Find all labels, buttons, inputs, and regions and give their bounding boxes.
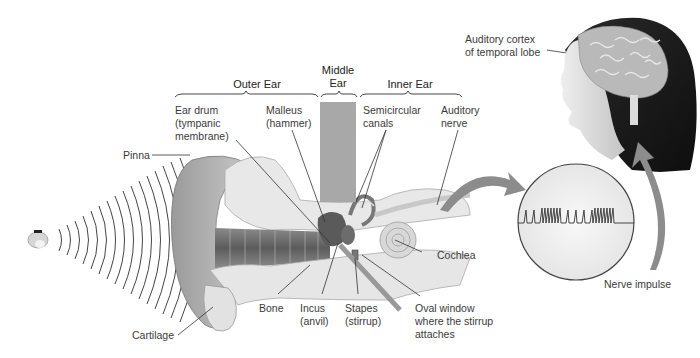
- label-malleus: Malleus (hammer): [266, 104, 312, 130]
- label-auditory-nerve: Auditory nerve: [441, 104, 480, 130]
- sound-source-icon: [28, 230, 48, 248]
- label-auditory-cortex: Auditory cortex of temporal lobe: [465, 33, 540, 59]
- label-stapes: Stapes (stirrup): [345, 302, 381, 328]
- ear-anatomy-diagram: Outer Ear Middle Ear Inner Ear Ear drum …: [0, 0, 700, 358]
- label-bone: Bone: [259, 302, 284, 315]
- label-oval-window: Oval window where the stirrup attaches: [415, 302, 493, 341]
- label-pinna: Pinna: [123, 149, 150, 162]
- inner-ear-header: Inner Ear: [380, 78, 440, 91]
- label-incus: Incus (anvil): [300, 302, 329, 328]
- label-semicircular-canals: Semicircular canals: [363, 104, 421, 130]
- label-cochlea: Cochlea: [437, 249, 476, 262]
- label-nerve-impulse: Nerve impulse: [604, 278, 671, 291]
- label-cartilage: Cartilage: [132, 329, 174, 342]
- middle-ear-column: [320, 102, 356, 202]
- section-brackets: [175, 91, 462, 97]
- outer-ear-header: Outer Ear: [222, 78, 292, 91]
- nerve-impulse-inset: [518, 164, 634, 280]
- middle-ear-header: Middle Ear: [310, 64, 366, 90]
- label-ear-drum: Ear drum (tympanic membrane): [175, 104, 229, 143]
